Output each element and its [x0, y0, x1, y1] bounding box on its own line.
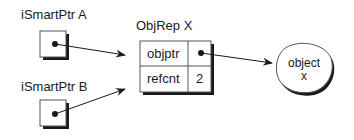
- objrep-field-refcnt: refcnt: [147, 71, 180, 86]
- object-label-line1: object: [284, 57, 324, 69]
- objrep-field-objptr: objptr: [147, 46, 180, 61]
- pointer-b-label: iSmartPtr B: [21, 79, 87, 94]
- objrep-value-refcnt: 2: [196, 71, 203, 86]
- object-label-line2: x: [284, 70, 324, 82]
- objrep-title: ObjRep X: [136, 18, 192, 33]
- pointer-a-label: iSmartPtr A: [21, 7, 87, 22]
- pointer-box-b: [40, 100, 69, 129]
